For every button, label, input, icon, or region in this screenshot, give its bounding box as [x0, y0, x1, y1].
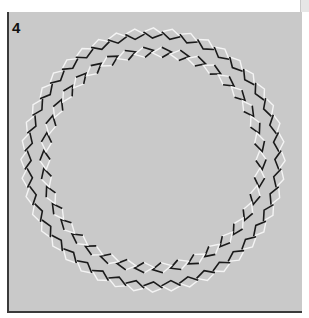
outer-ring — [17, 24, 288, 295]
panel-number-label: 4 — [12, 20, 20, 35]
rhombus-element — [19, 168, 35, 187]
rhombus-element — [44, 116, 57, 135]
rhombus-element — [227, 251, 245, 262]
rhombus-element — [198, 35, 214, 54]
rhombus-element — [74, 71, 86, 90]
rhombus-element — [265, 187, 284, 205]
rhombus-element — [41, 220, 51, 237]
rhombus-element — [161, 278, 180, 294]
rhombus-element — [252, 168, 267, 187]
rhombus-element — [39, 133, 54, 152]
rhombus-element — [213, 262, 230, 272]
rhombus-element — [63, 85, 73, 102]
rhombus-element — [87, 60, 102, 79]
rhombus-element — [41, 186, 60, 203]
rhombus-element — [162, 25, 181, 43]
rhombus-element — [52, 234, 63, 252]
rhombus-element — [91, 39, 109, 51]
rhombus-element — [48, 204, 67, 220]
rhombus-element — [37, 169, 55, 187]
rhombus-element — [77, 257, 92, 276]
rhombus-element — [61, 59, 79, 70]
rhombus-element — [180, 29, 198, 48]
rhombus-element — [203, 65, 220, 75]
concentric-rhombus-rings — [0, 0, 309, 318]
rhombus-element — [85, 246, 102, 256]
rhombus-element — [92, 266, 108, 285]
rhombus-element — [197, 270, 215, 282]
rhombus-element — [101, 51, 118, 70]
rhombus-element — [271, 132, 287, 151]
rhombus-element — [230, 55, 243, 74]
rhombus-element — [188, 249, 205, 268]
rhombus-element — [63, 247, 76, 266]
rhombus-element — [240, 237, 259, 250]
rhombus-element — [229, 87, 248, 101]
rhombus-element — [126, 277, 145, 295]
rhombus-element — [238, 101, 257, 117]
rhombus-element — [268, 115, 282, 134]
rhombus-element — [250, 133, 268, 151]
rhombus-element — [179, 275, 198, 289]
rhombus-element — [255, 83, 265, 100]
rhombus-element — [170, 48, 189, 62]
rhombus-element — [32, 204, 44, 222]
rhombus-element — [17, 150, 34, 169]
rhombus-element — [252, 150, 269, 169]
rhombus-element — [263, 98, 275, 116]
rhombus-element — [134, 259, 153, 275]
rhombus-element — [125, 26, 144, 42]
rhombus-element — [28, 99, 47, 115]
rhombus-element — [18, 133, 36, 152]
rhombus-element — [71, 234, 89, 245]
rhombus-element — [243, 202, 254, 220]
rhombus-element — [233, 218, 243, 235]
rhombus-element — [24, 186, 38, 205]
rhombus-element — [270, 169, 288, 188]
rhombus-element — [58, 220, 77, 234]
rhombus-element — [248, 186, 261, 205]
rhombus-element — [76, 48, 93, 58]
rhombus-element — [118, 46, 136, 65]
rhombus-element — [153, 259, 172, 277]
rhombus-element — [214, 44, 229, 63]
rhombus-element — [205, 241, 220, 260]
rhombus-element — [143, 278, 162, 295]
rhombus-element — [22, 115, 41, 133]
rhombus-element — [48, 70, 67, 83]
rhombus-element — [108, 31, 127, 45]
rhombus-element — [135, 43, 154, 61]
rhombus-element — [250, 221, 269, 236]
rhombus-element — [220, 230, 232, 249]
rhombus-element — [271, 150, 288, 169]
rhombus-element — [108, 272, 126, 291]
rhombus-element — [152, 44, 171, 60]
rhombus-element — [171, 255, 189, 274]
rhombus-element — [37, 84, 56, 99]
inner-ring — [36, 43, 269, 276]
rhombus-element — [143, 24, 162, 41]
rhombus-element — [259, 205, 278, 221]
rhombus-element — [244, 68, 255, 86]
rhombus-element — [117, 257, 136, 271]
rhombus-element — [246, 116, 265, 133]
rhombus-element — [36, 150, 53, 169]
rhombus-element — [217, 75, 235, 86]
rhombus-element — [53, 100, 64, 118]
